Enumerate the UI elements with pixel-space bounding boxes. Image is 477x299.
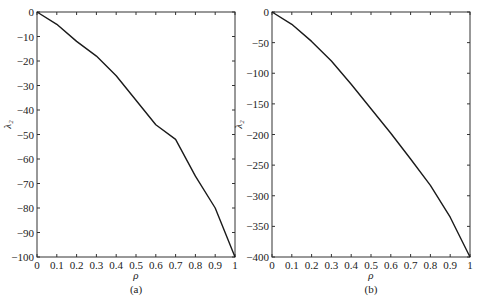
x-tick-label: 0.2: [305, 259, 319, 271]
y-tick-label: −100: [11, 251, 34, 263]
x-tick-label: 0.8: [189, 259, 203, 271]
x-tick-label: 0.6: [149, 259, 163, 271]
x-tick-label: 0.3: [90, 259, 104, 271]
y-tick-label: −250: [246, 159, 269, 171]
x-tick-label: 0.9: [208, 259, 222, 271]
y-tick-label: −300: [246, 190, 269, 202]
x-tick-label: 1: [467, 259, 473, 271]
x-tick-label: 0.3: [325, 259, 339, 271]
x-tick-label: 0.8: [424, 259, 438, 271]
x-tick-label: 0.7: [169, 259, 183, 271]
y-axis-label: λ₂: [232, 120, 244, 130]
y-tick-label: −150: [246, 98, 269, 110]
y-tick-label: −400: [246, 251, 269, 263]
x-tick-label: 0.4: [344, 259, 358, 271]
x-tick-label: 0.2: [70, 259, 84, 271]
y-tick-label: −70: [17, 178, 35, 190]
y-tick-label: −90: [17, 227, 35, 239]
data-line: [272, 12, 470, 257]
y-tick-label: −10: [17, 31, 35, 43]
x-axis-label: ρ: [367, 269, 373, 281]
plot-area-frame: [37, 12, 235, 257]
x-tick-label: 0: [34, 259, 40, 271]
x-tick-label: 1: [232, 259, 238, 271]
y-axis-label: λ₂: [1, 120, 13, 130]
y-tick-label: −100: [246, 67, 269, 79]
y-tick-label: −40: [17, 104, 35, 116]
x-tick-label: 0.6: [384, 259, 398, 271]
y-tick-label: 0: [29, 6, 35, 18]
plot-area-frame: [272, 12, 470, 257]
chart-panel-a: 00.10.20.30.40.50.60.70.80.910−10−20−30−…: [1, 6, 238, 296]
x-tick-label: 0.9: [443, 259, 457, 271]
y-tick-label: −50: [252, 37, 270, 49]
x-axis-label: ρ: [132, 269, 138, 281]
chart-panel-b: 00.10.20.30.40.50.60.70.80.910−50−100−15…: [232, 6, 473, 296]
y-tick-label: −350: [246, 220, 269, 232]
x-tick-label: 0.1: [50, 259, 64, 271]
figure: 00.10.20.30.40.50.60.70.80.910−10−20−30−…: [0, 0, 477, 299]
x-tick-label: 0: [269, 259, 275, 271]
data-line: [37, 12, 235, 257]
x-tick-label: 0.1: [285, 259, 299, 271]
y-tick-label: −50: [17, 129, 35, 141]
panel-caption: (a): [130, 283, 143, 296]
y-tick-label: −80: [17, 202, 35, 214]
panel-caption: (b): [365, 283, 378, 296]
x-tick-label: 0.4: [109, 259, 123, 271]
y-tick-label: −30: [17, 80, 35, 92]
x-tick-label: 0.7: [404, 259, 418, 271]
y-tick-label: −60: [17, 153, 35, 165]
y-tick-label: 0: [264, 6, 270, 18]
y-tick-label: −200: [246, 129, 269, 141]
y-tick-label: −20: [17, 55, 35, 67]
